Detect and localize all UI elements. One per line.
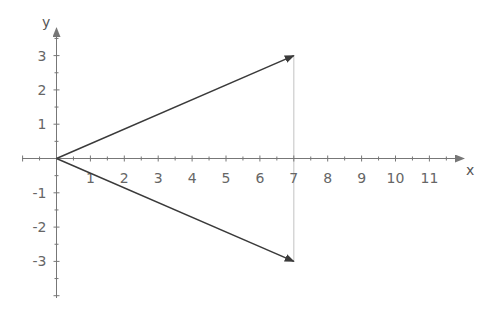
y-tick-label: 3 <box>38 48 47 64</box>
y-tick-label: 1 <box>38 116 47 132</box>
x-tick-label: 9 <box>357 170 366 186</box>
x-tick-label: 6 <box>255 170 264 186</box>
x-tick-label: 11 <box>420 170 438 186</box>
y-tick-label: -1 <box>33 185 47 201</box>
x-tick-label: 2 <box>120 170 129 186</box>
x-tick-label: 8 <box>323 170 332 186</box>
x-tick-label: 3 <box>154 170 163 186</box>
vector-upper-arrow <box>57 56 294 159</box>
x-tick-label: 7 <box>289 170 298 186</box>
y-axis-label: y <box>42 14 50 30</box>
y-tick-label: 2 <box>38 82 47 98</box>
x-axis-label: x <box>466 162 474 178</box>
x-tick-label: 10 <box>387 170 405 186</box>
x-tick-label: 5 <box>222 170 231 186</box>
x-tick-label: 4 <box>188 170 197 186</box>
y-tick-label: -2 <box>33 219 47 235</box>
vector-plot: 1234567891011321-1-2-3xy <box>0 0 493 317</box>
y-tick-label: -3 <box>33 253 47 269</box>
